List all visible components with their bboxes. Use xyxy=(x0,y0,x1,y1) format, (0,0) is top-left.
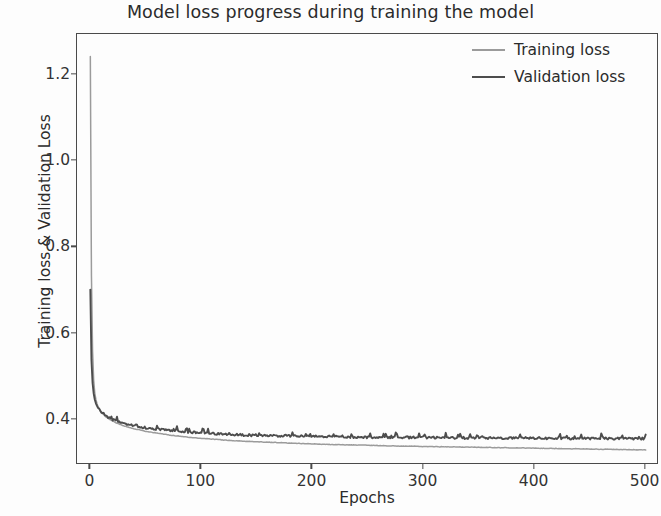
plot-lines xyxy=(77,34,659,465)
y-axis-tick-labels: 0.40.60.81.01.2 xyxy=(14,33,70,464)
x-tick-label: 500 xyxy=(630,472,660,490)
plot-area xyxy=(76,33,658,464)
y-tick-label: 1.0 xyxy=(26,151,70,169)
y-tick-label: 0.6 xyxy=(26,324,70,342)
legend-item[interactable]: Training loss xyxy=(472,40,625,60)
legend-color-swatch xyxy=(472,49,505,51)
series-line xyxy=(90,290,645,440)
legend-label: Validation loss xyxy=(514,68,625,86)
x-axis-label: Epochs xyxy=(76,489,658,507)
y-tick-label: 0.8 xyxy=(26,237,70,255)
legend-color-swatch xyxy=(472,76,505,78)
x-axis-tick-labels: 0100200300400500 xyxy=(76,464,658,490)
legend-label: Training loss xyxy=(514,41,610,59)
x-tick-label: 0 xyxy=(84,472,94,490)
legend-item[interactable]: Validation loss xyxy=(472,67,625,87)
x-tick-label: 200 xyxy=(297,472,327,490)
y-tick-label: 0.4 xyxy=(26,410,70,428)
series-line xyxy=(90,56,645,450)
x-tick-label: 300 xyxy=(408,472,438,490)
chart-legend: Training lossValidation loss xyxy=(472,40,625,87)
chart-title: Model loss progress during training the … xyxy=(0,2,661,22)
x-tick-label: 400 xyxy=(519,472,549,490)
y-tick-label: 1.2 xyxy=(26,65,70,83)
figure-canvas: Model loss progress during training the … xyxy=(0,0,661,516)
x-tick-label: 100 xyxy=(186,472,216,490)
